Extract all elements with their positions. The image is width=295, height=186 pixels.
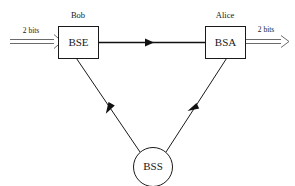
diagram-canvas: 2 bits Bob BSE Alice BSA 2 bits <box>0 0 295 186</box>
output-bits-label: 2 bits <box>258 25 275 34</box>
output-arrowhead-icon <box>281 36 289 48</box>
edge-input-2bits <box>10 35 62 49</box>
edge-bse-to-bsa <box>99 39 206 47</box>
node-bss-label: BSS <box>143 160 163 172</box>
edge-bss-to-bse <box>77 59 141 153</box>
node-bsa-label: BSA <box>215 36 236 48</box>
diagram-svg: 2 bits Bob BSE Alice BSA 2 bits <box>0 0 295 186</box>
party-label-alice: Alice <box>216 10 235 20</box>
bse-bsa-arrowhead-icon <box>145 39 154 47</box>
node-bse-label: BSE <box>68 36 88 48</box>
edge-bss-to-bsa <box>166 59 227 153</box>
party-label-bob: Bob <box>71 10 85 20</box>
input-bits-label: 2 bits <box>23 26 40 35</box>
edge-output-2bits <box>246 36 289 48</box>
